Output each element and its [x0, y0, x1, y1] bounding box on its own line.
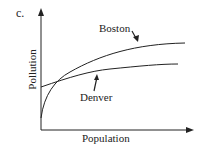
denver-line — [41, 64, 178, 87]
x-axis-label: Population — [82, 133, 130, 144]
denver-arrow-icon — [94, 74, 99, 80]
boston-arrow-icon — [133, 35, 139, 42]
y-axis-label: Pollution — [27, 42, 38, 98]
boston-line — [41, 43, 185, 118]
panel-label: c. — [16, 7, 24, 19]
y-axis-arrow-icon — [38, 8, 44, 16]
denver-label: Denver — [80, 92, 112, 103]
chart: c. Boston Denver Population Pollution — [0, 0, 203, 154]
x-axis-arrow-icon — [186, 127, 194, 133]
boston-label: Boston — [99, 23, 130, 34]
